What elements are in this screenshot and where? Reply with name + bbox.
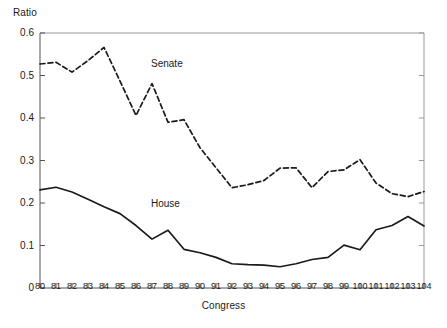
y-axis-title: Ratio: [13, 7, 37, 18]
series-label-senate: Senate: [151, 58, 183, 69]
x-tick-104: 104: [413, 281, 435, 291]
y-tick-0.6: 0.6: [4, 27, 34, 38]
chart-figure: Ratio Congress 0.60.50.40.30.20.10 80818…: [0, 0, 447, 328]
data-series: [40, 47, 424, 266]
series-line-house: [40, 187, 424, 266]
series-line-senate: [40, 47, 424, 196]
plot-canvas: [0, 0, 447, 328]
axis-ticks: [40, 33, 424, 288]
y-tick-0.1: 0.1: [4, 240, 34, 251]
y-tick-0.4: 0.4: [4, 112, 34, 123]
y-tick-0.2: 0.2: [4, 197, 34, 208]
plot-axes: [40, 33, 424, 288]
y-tick-0.3: 0.3: [4, 155, 34, 166]
y-tick-0.5: 0.5: [4, 70, 34, 81]
series-label-house: House: [151, 198, 180, 209]
x-axis-title: Congress: [0, 300, 447, 311]
